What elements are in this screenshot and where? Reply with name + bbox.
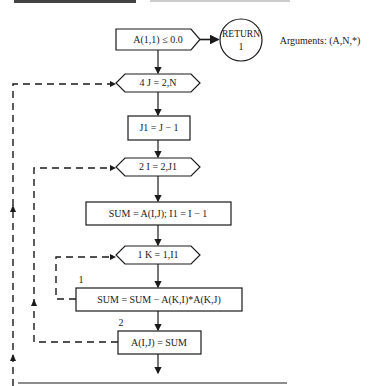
loop-k-return-line	[56, 257, 114, 299]
loop-label-2: 2	[119, 318, 124, 328]
loop-k-label: 1 K = 1,I1	[137, 250, 178, 260]
return-label: RETURN	[222, 30, 260, 40]
loop-label-1: 1	[79, 275, 84, 285]
loop-j-label: 4 J = 2,N	[140, 78, 177, 88]
flowchart	[0, 0, 383, 386]
loop-i-return-line	[34, 168, 118, 342]
assign-label: A(I,J) = SUM	[131, 338, 187, 348]
test-condition-label: A(1,1) ≤ 0.0	[133, 35, 182, 45]
arguments-label: Arguments: (A,N,*)	[280, 36, 361, 46]
sum-update-label: SUM = SUM − A(K,I)*A(K,J)	[97, 295, 221, 305]
j1-label: J1 = J − 1	[139, 123, 178, 133]
loop-i-label: 2 I = 2,J1	[139, 162, 177, 172]
sum-init-label: SUM = A(I,J); I1 = I − 1	[109, 209, 208, 219]
return-circle	[220, 19, 262, 61]
return-code-label: 1	[239, 42, 244, 52]
loop-j-return-line	[13, 84, 114, 386]
